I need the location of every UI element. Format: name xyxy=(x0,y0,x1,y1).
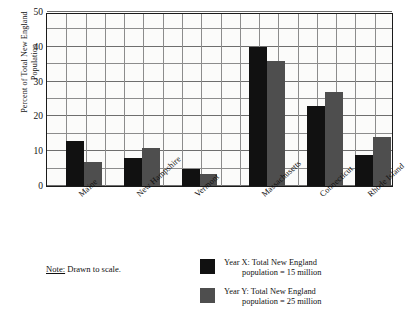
gridline-vertical xyxy=(201,14,202,186)
gridline-vertical xyxy=(105,14,106,186)
chart-note: Note: Drawn to scale. xyxy=(46,264,121,274)
legend-label-line1: Year Y: Total New England xyxy=(224,287,316,296)
bar-vermont-year-x xyxy=(182,169,200,186)
plot-area: 01020304050 xyxy=(46,13,393,187)
bar-chart: Percent of Total New EnglandPopulation 0… xyxy=(0,0,412,320)
bar-massachusetts-year-y xyxy=(267,61,285,186)
legend-label: Year Y: Total New Englandpopulation = 25… xyxy=(224,287,321,308)
y-tick-label: 10 xyxy=(34,146,44,156)
legend-item: Year Y: Total New Englandpopulation = 25… xyxy=(200,287,410,308)
gridline-minor xyxy=(47,63,392,64)
y-tick-label: 0 xyxy=(38,181,43,191)
y-tick-label: 30 xyxy=(34,77,44,87)
legend-label: Year X: Total New Englandpopulation = 15… xyxy=(224,258,321,279)
gridline-minor xyxy=(47,28,392,29)
y-axis-title-line1: Percent of Total New England xyxy=(20,11,29,113)
y-tick-label: 50 xyxy=(34,7,44,17)
note-text: Drawn to scale. xyxy=(65,264,121,274)
legend-label-line2: population = 25 million xyxy=(224,297,321,307)
gridline-major xyxy=(47,81,392,82)
legend-label-line2: population = 15 million xyxy=(224,268,321,278)
legend-swatch-year-y xyxy=(200,288,215,303)
gridline-vertical xyxy=(240,14,241,186)
legend-item: Year X: Total New Englandpopulation = 15… xyxy=(200,258,410,279)
gridline-vertical xyxy=(163,14,164,186)
note-label: Note: xyxy=(46,264,65,274)
gridline-major xyxy=(47,11,392,12)
bar-rhode-island-year-x xyxy=(355,155,373,186)
legend-swatch-year-x xyxy=(200,259,215,274)
bar-connecticut-year-x xyxy=(307,106,325,186)
y-axis-title: Percent of Total New EnglandPopulation xyxy=(20,0,40,147)
gridline-vertical xyxy=(221,14,222,186)
y-tick-label: 40 xyxy=(34,42,44,52)
bar-maine-year-x xyxy=(66,141,84,186)
legend-label-line1: Year X: Total New England xyxy=(224,258,317,267)
gridline-vertical xyxy=(86,14,87,186)
bar-new-hampshire-year-x xyxy=(124,158,142,186)
bar-massachusetts-year-x xyxy=(249,47,267,186)
gridline-major xyxy=(47,46,392,47)
y-tick-label: 20 xyxy=(34,111,44,121)
chart-legend: Year X: Total New Englandpopulation = 15… xyxy=(200,258,410,316)
